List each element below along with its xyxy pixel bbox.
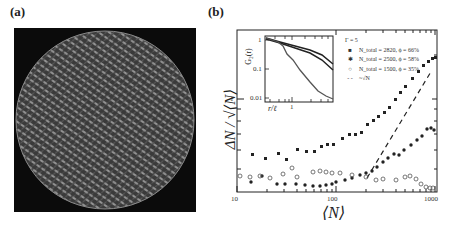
x-axis-label: ⟨N⟩ bbox=[322, 203, 345, 222]
x-tick-1000: 1000 bbox=[424, 195, 438, 203]
inset-x-tick-1: 1 bbox=[290, 103, 294, 111]
y-tick-1: 1 bbox=[230, 95, 234, 103]
inset-y-tick-0.1: 0.1 bbox=[253, 65, 262, 73]
inset-y-tick-0.01: 0.01 bbox=[250, 94, 262, 102]
legend-item-66pct: ■N_total = 2820, ϕ = 66% bbox=[345, 46, 419, 56]
filled-star-icon: ✱ bbox=[345, 55, 355, 65]
legend-title: Γ = 5 bbox=[345, 36, 419, 46]
inset-x-axis-label: r/ℓ bbox=[268, 104, 277, 113]
inset-plot bbox=[265, 36, 333, 102]
open-circle-icon: ○ bbox=[345, 65, 355, 75]
legend-item-35pct: ○N_total = 1500, ϕ = 35% bbox=[345, 65, 419, 75]
sqrt-n-line bbox=[367, 70, 432, 178]
legend-item-sqrt: - -~√N bbox=[345, 74, 419, 84]
x-tick-10: 10 bbox=[231, 195, 238, 203]
main-plot bbox=[0, 0, 452, 232]
legend-item-58pct: ✱N_total = 2500, ϕ = 58% bbox=[345, 55, 419, 65]
inset-y-axis-label: G₂(r) bbox=[244, 48, 253, 65]
x-tick-100: 100 bbox=[327, 195, 338, 203]
filled-square-icon: ■ bbox=[345, 46, 355, 56]
legend: Γ = 5 ■N_total = 2820, ϕ = 66% ✱N_total … bbox=[345, 36, 419, 84]
inset-y-tick-1: 1 bbox=[258, 36, 262, 44]
dashed-line-icon: - - bbox=[345, 74, 355, 84]
series-58pct bbox=[249, 126, 435, 187]
